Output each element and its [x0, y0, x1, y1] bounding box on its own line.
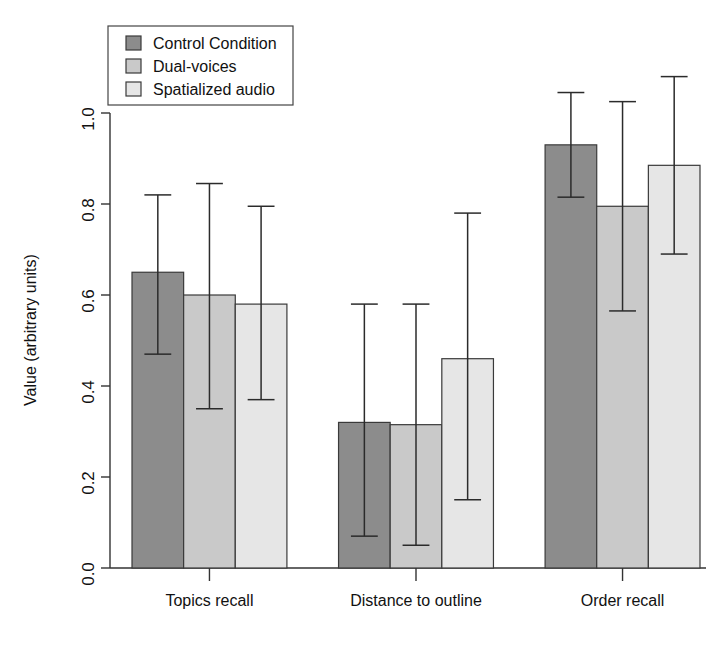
legend-swatch [126, 36, 141, 50]
x-tick-label: Distance to outline [350, 592, 482, 609]
bar [545, 145, 597, 568]
chart-canvas: 0.00.20.40.60.81.0 Topics recallDistance… [0, 0, 720, 649]
y-axis-title: Value (arbitrary units) [22, 254, 39, 406]
y-tick-label: 0.2 [79, 471, 98, 495]
y-tick-label: 0.4 [79, 380, 98, 404]
legend-label: Spatialized audio [153, 81, 275, 98]
legend-label: Dual-voices [153, 58, 237, 75]
y-tick-label: 1.0 [79, 107, 98, 131]
legend-label: Control Condition [153, 35, 277, 52]
x-tick-label: Topics recall [165, 592, 253, 609]
x-tick-label: Order recall [581, 592, 665, 609]
legend-swatch [126, 82, 141, 96]
y-tick-label: 0.8 [79, 198, 98, 222]
legend-swatch [126, 59, 141, 73]
y-tick-label: 0.6 [79, 289, 98, 313]
x-axis-ticks: Topics recallDistance to outlineOrder re… [165, 568, 664, 609]
y-axis-ticks: 0.00.20.40.60.81.0 [79, 107, 110, 586]
chart-legend: Control ConditionDual-voicesSpatialized … [108, 26, 293, 105]
y-tick-label: 0.0 [79, 562, 98, 586]
bar-chart-figure: 0.00.20.40.60.81.0 Topics recallDistance… [0, 0, 720, 649]
